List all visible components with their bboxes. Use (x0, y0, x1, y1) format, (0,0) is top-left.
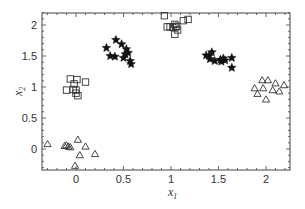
y-tick-label: 1 (31, 81, 37, 93)
y-tick-label: 0.5 (22, 112, 37, 124)
x-tick-label: 0 (73, 173, 79, 185)
triangle-marker (82, 143, 89, 149)
triangle-marker (272, 80, 279, 86)
x-tick-label: 2 (263, 173, 269, 185)
star-marker (227, 53, 236, 61)
y-axis-label: x2 (11, 87, 27, 97)
triangle-marker (260, 85, 267, 91)
triangle-marker (44, 140, 51, 146)
triangle-marker (71, 162, 78, 168)
triangle-marker (74, 136, 81, 142)
star-marker (112, 35, 121, 43)
triangle-marker (76, 152, 83, 158)
x-tick-label: 1.5 (211, 173, 226, 185)
triangle-marker (262, 96, 269, 102)
data-points (44, 13, 288, 169)
star-marker (117, 40, 126, 48)
star-marker (227, 63, 236, 71)
triangle-marker (91, 150, 98, 156)
y-tick-label: 0 (31, 143, 37, 155)
x-tick-label: 0.5 (116, 173, 131, 185)
y-tick-label: 2 (31, 19, 37, 31)
x-tick-label: 1 (168, 173, 174, 185)
square-marker (82, 79, 88, 85)
x-axis-label: x1 (167, 185, 177, 201)
star-marker (102, 43, 111, 51)
tick-labels: 00.511.5200.511.52 (22, 19, 269, 185)
triangle-marker (269, 87, 276, 93)
square-marker (67, 76, 73, 82)
square-marker (63, 87, 69, 93)
scatter-chart: 00.511.5200.511.52 x1 x2 (0, 0, 305, 209)
y-tick-label: 1.5 (22, 50, 37, 62)
